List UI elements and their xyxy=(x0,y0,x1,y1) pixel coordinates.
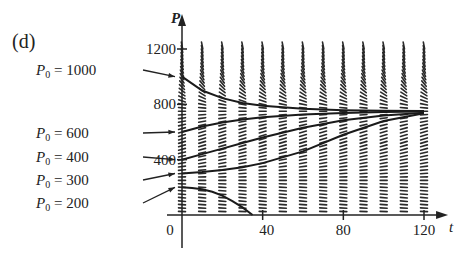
slope-segment xyxy=(199,194,206,195)
slope-segment xyxy=(320,131,327,133)
arrowhead-icon xyxy=(168,130,175,135)
slope-segment xyxy=(360,96,366,99)
slope-segment xyxy=(380,204,387,205)
slope-segment xyxy=(320,148,327,150)
slope-segment xyxy=(400,194,407,195)
slope-segment xyxy=(400,204,407,205)
slope-segment xyxy=(401,100,408,102)
slope-segment xyxy=(400,141,407,143)
slope-segment xyxy=(239,145,246,147)
t-axis-arrow-icon xyxy=(436,211,448,219)
slope-segment xyxy=(199,141,206,143)
slope-segment xyxy=(380,148,387,150)
slope-segment xyxy=(360,138,367,140)
slope-segment xyxy=(421,138,428,140)
slope-segment xyxy=(279,152,286,154)
slope-segment xyxy=(239,194,246,195)
slope-segment xyxy=(340,118,347,119)
slope-segment xyxy=(300,100,307,102)
slope-segment xyxy=(421,152,428,154)
slope-segment xyxy=(279,141,286,143)
slope-segment xyxy=(239,114,246,115)
slope-segment xyxy=(340,107,347,108)
slope-segment xyxy=(320,138,327,140)
slope-segment xyxy=(360,204,367,205)
slope-segment xyxy=(300,204,307,205)
slope-segment xyxy=(320,194,327,195)
slope-segment xyxy=(259,170,266,171)
slope-segment xyxy=(360,107,367,108)
slope-segment xyxy=(320,204,327,205)
slope-segment xyxy=(300,166,307,167)
slope-segment xyxy=(219,204,226,205)
slope-segment xyxy=(279,159,286,160)
slope-segment xyxy=(320,134,327,136)
slope-segment xyxy=(320,104,327,105)
slope-segment xyxy=(380,134,387,136)
slope-segment xyxy=(239,159,246,160)
slope-segment xyxy=(199,134,206,136)
slope-segment xyxy=(300,138,307,140)
slope-segment xyxy=(300,201,307,202)
slope-segment xyxy=(219,128,226,130)
slope-segment xyxy=(340,148,347,150)
slope-segment xyxy=(239,124,246,126)
initial-condition-label: P0 = 300 xyxy=(35,172,89,190)
slope-segment xyxy=(320,201,327,202)
slope-segment xyxy=(239,201,246,202)
slope-segment xyxy=(300,131,307,133)
slope-segment xyxy=(239,107,246,108)
slope-segment xyxy=(259,141,266,143)
slope-segment xyxy=(380,155,387,157)
slope-segment xyxy=(300,124,307,126)
slope-segment xyxy=(259,152,266,154)
slope-segment xyxy=(199,145,206,147)
slope-segment xyxy=(320,170,327,171)
slope-segment xyxy=(259,155,266,157)
slope-segment xyxy=(239,170,246,171)
slope-segment xyxy=(340,194,347,195)
slope-segment xyxy=(340,104,347,105)
slope-segment xyxy=(259,107,266,108)
slope-segment xyxy=(199,159,206,160)
slope-segment xyxy=(421,96,427,99)
slope-segment xyxy=(259,145,266,147)
slope-segment xyxy=(320,197,327,198)
slope-segment xyxy=(300,141,307,143)
slope-segment xyxy=(340,100,347,102)
slope-segment xyxy=(239,121,246,122)
slope-segment xyxy=(400,121,407,122)
slope-segment xyxy=(380,118,387,119)
slope-segment xyxy=(360,121,367,122)
slope-segment xyxy=(219,118,226,119)
slope-segment xyxy=(219,159,226,160)
slope-segment xyxy=(320,166,327,167)
slope-segment xyxy=(380,197,387,198)
slope-segment xyxy=(279,124,286,126)
slope-segment xyxy=(219,141,226,143)
slope-segment xyxy=(360,197,367,198)
slope-segment xyxy=(320,155,327,157)
slope-segment xyxy=(360,124,367,126)
slope-segment xyxy=(199,201,206,202)
slope-segment xyxy=(199,170,206,171)
slope-segment xyxy=(300,121,307,122)
slope-field-chart: (d) Pt400800120004080120 P0 = 1000P0 = 6… xyxy=(0,0,463,256)
slope-segment xyxy=(279,148,286,150)
slope-segment xyxy=(239,197,246,198)
slope-segment xyxy=(421,155,428,157)
slope-segment xyxy=(219,104,226,105)
slope-segment xyxy=(380,163,387,164)
slope-segment xyxy=(279,170,286,171)
slope-segment xyxy=(259,114,266,115)
slope-segment xyxy=(400,170,407,171)
arrowhead-icon xyxy=(168,187,175,192)
slope-segment xyxy=(199,114,206,115)
slope-segment xyxy=(219,152,226,154)
slope-segment xyxy=(340,204,347,205)
slope-segment xyxy=(320,163,327,164)
p-axis-label: P xyxy=(171,10,181,26)
slope-segment xyxy=(421,145,428,147)
slope-segment xyxy=(421,170,428,171)
slope-segment xyxy=(239,138,246,140)
